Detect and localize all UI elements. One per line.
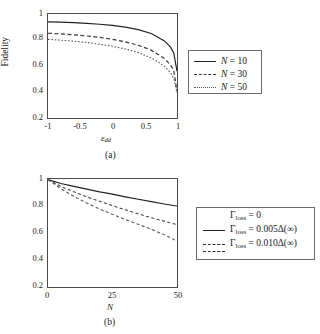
panel-caption-a: (a) bbox=[105, 150, 116, 160]
xaxis-label-a: εdd bbox=[101, 134, 111, 144]
xaxis-label-b-base: N bbox=[107, 302, 113, 312]
curve-gamma-0005 bbox=[48, 180, 177, 225]
plot-area-b bbox=[47, 178, 178, 288]
legend-label-gamma-0: Γloss = 0 bbox=[230, 211, 261, 221]
xaxis-label-b: N bbox=[107, 303, 113, 312]
legend-item-gamma-0010[interactable]: Γloss = 0.010Δ(∞) bbox=[203, 239, 297, 249]
legend-line-solid-icon-b bbox=[203, 230, 225, 231]
legend-label-n-10: N = 10 bbox=[221, 57, 247, 67]
plot-area-a bbox=[47, 13, 178, 119]
ytick-a-0.4: 0.4 bbox=[15, 86, 43, 95]
legend-label-n-30: N = 30 bbox=[221, 70, 247, 80]
legend-line-dotted-icon bbox=[194, 87, 216, 88]
ytick-b-0.4: 0.4 bbox=[15, 254, 43, 263]
curve-n-30 bbox=[48, 33, 177, 91]
ytick-a-0.6: 0.6 bbox=[15, 60, 43, 69]
legend-line-dotted-icon-b bbox=[203, 251, 225, 252]
legend-panel-b: Γloss = 0 Γloss = 0.005Δ(∞) Γloss = 0.01… bbox=[196, 207, 315, 260]
xtick-a-0.5: 0.5 bbox=[135, 122, 157, 131]
legend-line-solid-icon bbox=[194, 61, 216, 62]
legend-item-gamma-0[interactable]: Γloss = 0 bbox=[203, 211, 261, 221]
legend-panel-a: N = 10 N = 30 N = 50 bbox=[188, 50, 262, 94]
xtick-b-25: 25 bbox=[104, 291, 120, 300]
xaxis-label-a-sub: dd bbox=[105, 136, 111, 143]
legend-item-trailing-sample bbox=[203, 251, 230, 252]
ytick-b-0.6: 0.6 bbox=[15, 227, 43, 236]
yaxis-label-a: Fidelity bbox=[1, 37, 11, 67]
legend-line-dashed-icon bbox=[194, 74, 216, 75]
legend-label-gamma-0005: Γloss = 0.005Δ(∞) bbox=[230, 225, 297, 235]
curves-panel-a bbox=[48, 14, 177, 118]
panel-caption-b: (b) bbox=[104, 317, 115, 327]
legend-item-n-50[interactable]: N = 50 bbox=[194, 83, 247, 93]
ytick-a-0.2: 0.2 bbox=[15, 113, 43, 122]
xtick-a-0: 0 bbox=[107, 122, 119, 131]
legend-item-n-30[interactable]: N = 30 bbox=[194, 70, 247, 80]
xtick-a-neg1: -1 bbox=[42, 122, 54, 131]
xtick-b-0: 0 bbox=[41, 291, 53, 300]
figure-container: 1 0.8 0.6 0.4 0.2 -1 -0.5 0 0.5 1 εdd Fi… bbox=[0, 0, 320, 334]
xtick-a-neg0.5: -0.5 bbox=[69, 122, 91, 131]
curve-n-50 bbox=[48, 39, 177, 92]
legend-item-n-10[interactable]: N = 10 bbox=[194, 57, 247, 67]
curve-gamma-0010 bbox=[48, 180, 177, 241]
panel-a: 1 0.8 0.6 0.4 0.2 -1 -0.5 0 0.5 1 εdd Fi… bbox=[0, 0, 320, 167]
curves-panel-b bbox=[48, 179, 177, 287]
xtick-a-1: 1 bbox=[172, 122, 184, 131]
xtick-b-50: 50 bbox=[170, 291, 186, 300]
ytick-a-1: 1 bbox=[15, 9, 43, 18]
legend-item-gamma-0005[interactable]: Γloss = 0.005Δ(∞) bbox=[203, 225, 297, 235]
legend-label-gamma-0010: Γloss = 0.010Δ(∞) bbox=[230, 239, 297, 249]
legend-line-dashed-icon-b bbox=[203, 244, 225, 245]
ytick-a-0.8: 0.8 bbox=[15, 33, 43, 42]
ytick-b-1: 1 bbox=[15, 174, 43, 183]
legend-label-n-50: N = 50 bbox=[221, 83, 247, 93]
ytick-b-0.2: 0.2 bbox=[15, 281, 43, 290]
panel-b: 1 0.8 0.6 0.4 0.2 0 25 50 N (b) Γloss = … bbox=[0, 167, 320, 334]
ytick-b-0.8: 0.8 bbox=[15, 200, 43, 209]
